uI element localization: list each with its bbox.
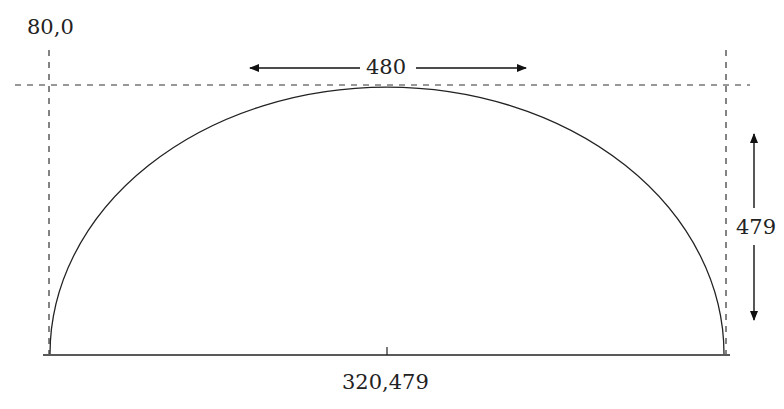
semi-ellipse-arc <box>50 87 724 354</box>
origin-label: 80,0 <box>27 17 74 38</box>
center-label: 320,479 <box>342 372 429 393</box>
width-label: 480 <box>366 57 406 78</box>
height-label: 479 <box>736 217 776 238</box>
